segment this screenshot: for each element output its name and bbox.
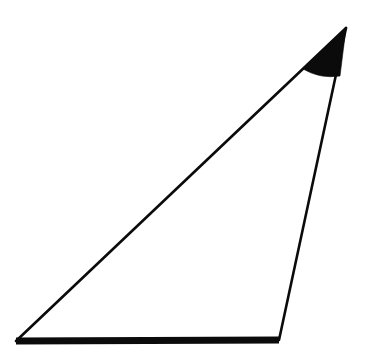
- vertex-bottom-right: [270, 331, 288, 349]
- triangle-edge-base: [16, 340, 279, 341]
- vertex-apex: [337, 19, 355, 37]
- triangle-diagram-svg: [0, 0, 373, 360]
- vertex-bottom-left: [7, 332, 25, 350]
- figure-canvas: [0, 0, 373, 360]
